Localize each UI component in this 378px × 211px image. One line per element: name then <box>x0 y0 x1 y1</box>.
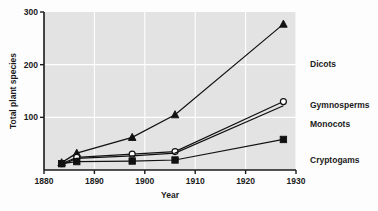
marker-square-cryptogams <box>74 158 80 164</box>
marker-square-cryptogams <box>58 160 64 166</box>
y-tick-label: 200 <box>24 60 38 70</box>
marker-circle-gymnosperms <box>280 99 286 105</box>
series-label-cryptogams: Cryptogams <box>310 155 360 165</box>
marker-square-cryptogams <box>172 157 178 163</box>
x-tick-label: 1900 <box>135 176 154 186</box>
plot-area-background <box>44 12 296 170</box>
x-axis-ticks: 188018901900191019201930 <box>35 170 306 186</box>
y-tick-label: 300 <box>24 7 38 17</box>
line-chart: 100200300 188018901900191019201930 Dicot… <box>0 0 378 211</box>
x-tick-label: 1920 <box>236 176 255 186</box>
x-axis-title: Year <box>161 190 180 200</box>
x-tick-label: 1880 <box>35 176 54 186</box>
series-label-dicots: Dicots <box>310 59 336 69</box>
chart-figure: 100200300 188018901900191019201930 Dicot… <box>0 0 378 211</box>
series-label-gymnosperms: Gymnosperms <box>310 100 370 110</box>
y-axis-ticks: 100200300 <box>24 7 44 122</box>
x-tick-label: 1930 <box>287 176 306 186</box>
series-label-monocots: Monocots <box>310 119 350 129</box>
y-tick-label: 100 <box>24 112 38 122</box>
x-tick-label: 1890 <box>85 176 104 186</box>
y-axis-title: Total plant species <box>8 53 18 129</box>
marker-square-cryptogams <box>129 158 135 164</box>
marker-square-cryptogams <box>280 136 286 142</box>
series-labels-group: DicotsGymnospermsMonocotsCryptogams <box>310 59 370 165</box>
x-tick-label: 1910 <box>186 176 205 186</box>
